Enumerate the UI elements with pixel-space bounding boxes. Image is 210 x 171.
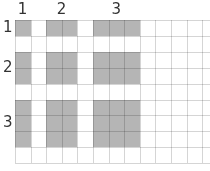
- grid-line-vertical: [109, 20, 110, 163]
- shaded-block-r3-c1: [15, 100, 31, 148]
- grid-line-horizontal: [15, 84, 210, 85]
- grid-line-horizontal: [15, 36, 210, 37]
- row-label-2: 2: [3, 60, 13, 75]
- row-label-1: 1: [3, 20, 13, 35]
- grid-line-horizontal: [15, 68, 210, 69]
- grid-line-horizontal: [15, 163, 210, 164]
- grid-line-horizontal: [15, 147, 210, 148]
- column-label-1: 1: [18, 2, 28, 17]
- column-label-2: 2: [57, 2, 67, 17]
- grid-line-vertical: [140, 20, 141, 163]
- grid-line-vertical: [31, 20, 32, 163]
- grid-line-vertical: [15, 20, 16, 163]
- grid-line-horizontal: [15, 52, 210, 53]
- shaded-block-r1-c1: [15, 20, 31, 36]
- shaded-block-r1-c3: [93, 20, 140, 36]
- grid-line-horizontal: [15, 20, 210, 21]
- grid-line-vertical: [202, 20, 203, 163]
- grid-line-vertical: [93, 20, 94, 163]
- grid-line-vertical: [187, 20, 188, 163]
- grid-line-vertical: [155, 20, 156, 163]
- grid-line-vertical: [62, 20, 63, 163]
- grid-line-horizontal: [15, 100, 210, 101]
- grid-line-vertical: [46, 20, 47, 163]
- grid-line-horizontal: [15, 131, 210, 132]
- grid-line-horizontal: [15, 115, 210, 116]
- grid-line-vertical: [77, 20, 78, 163]
- shaded-block-r3-c3: [93, 100, 140, 148]
- grid-line-vertical: [124, 20, 125, 163]
- grid-line-vertical: [171, 20, 172, 163]
- row-label-3: 3: [3, 115, 13, 130]
- column-label-3: 3: [111, 2, 121, 17]
